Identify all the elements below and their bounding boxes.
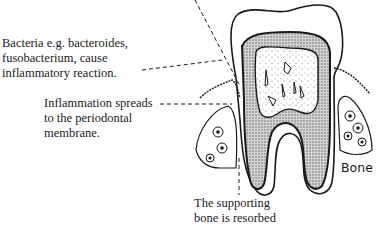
gum-right — [334, 68, 370, 94]
bacteria-line-2: fusobacterium, cause — [2, 51, 128, 66]
bacteria-line-1: Bacteria e.g. bacteroides, — [2, 36, 128, 51]
bone-right — [338, 96, 372, 154]
inflammation-label: Inflammation spreads to the periodontal … — [44, 96, 153, 141]
bone-resorbed-label: The supporting bone is resorbed — [194, 196, 276, 226]
bone-resorbed-line-2: bone is resorbed — [194, 211, 276, 226]
bacteria-line-3: inflammatory reaction. — [2, 66, 128, 81]
gum-left — [200, 80, 240, 98]
bone-label: Bone — [341, 160, 373, 175]
bone-resorbed-line-1: The supporting — [194, 196, 276, 211]
pulp — [255, 47, 318, 117]
inflammation-line-3: membrane. — [44, 126, 153, 141]
bacteria-label: Bacteria e.g. bacteroides, fusobacterium… — [2, 36, 128, 81]
leader-top — [195, 0, 240, 86]
leader-bacteria — [142, 60, 222, 70]
inflammation-line-2: to the periodontal — [44, 111, 153, 126]
inflammation-line-1: Inflammation spreads — [44, 96, 153, 111]
